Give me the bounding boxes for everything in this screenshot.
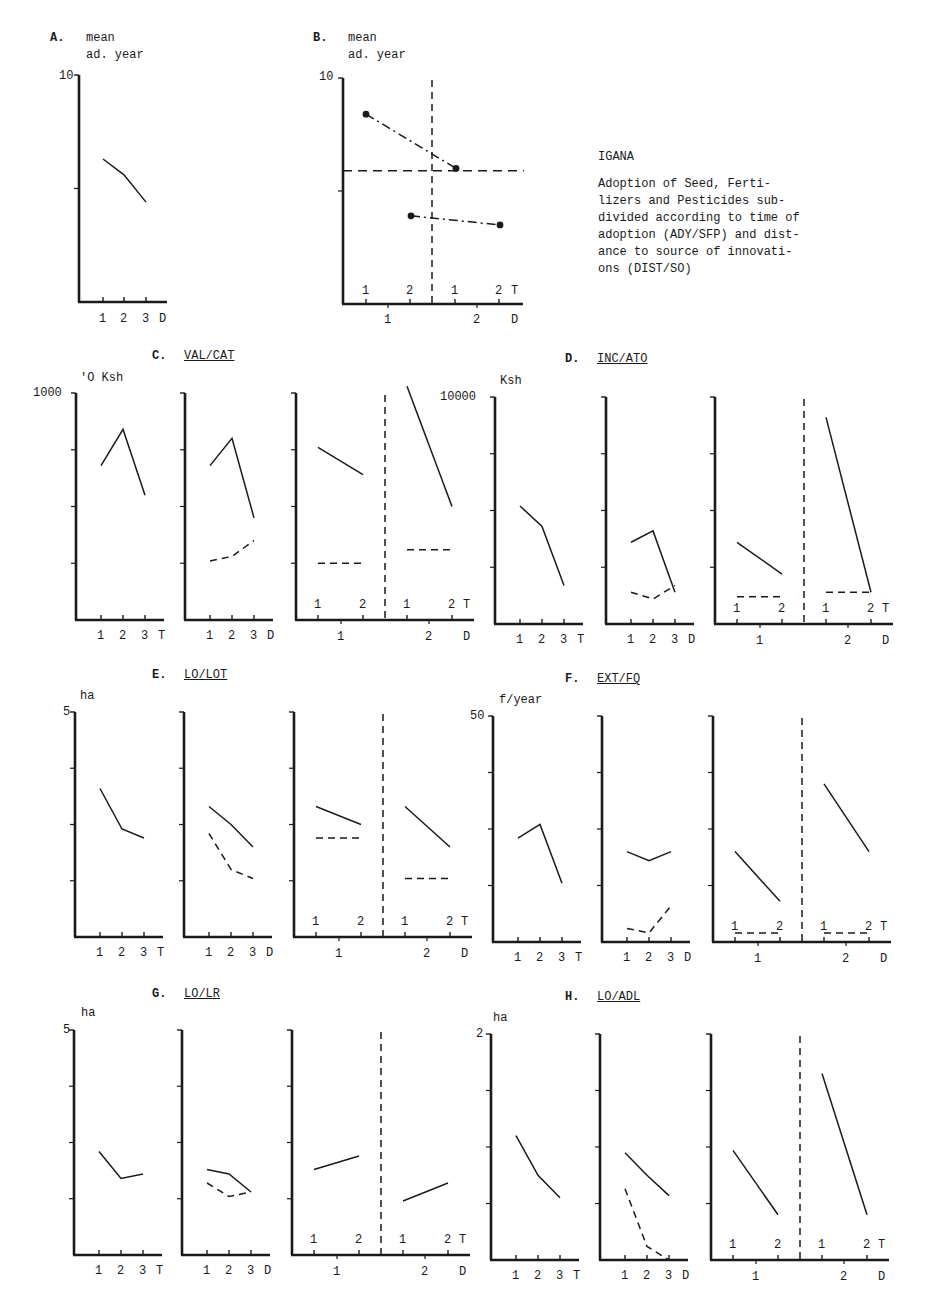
- T-tick-label: 1: [731, 920, 738, 934]
- series-line: [735, 852, 780, 902]
- x-tick-label: 1: [512, 1269, 519, 1283]
- x-tick-label: 1: [621, 1269, 628, 1283]
- x-tick-label: 1: [514, 951, 521, 965]
- T-tick-label: 1: [310, 1233, 317, 1247]
- series-line: [631, 531, 675, 592]
- x-axis-title: T: [577, 633, 584, 647]
- D-tick-label: 1: [756, 634, 763, 648]
- T-tick-label: 2: [867, 602, 874, 616]
- T-tick-label: 2: [444, 1233, 451, 1247]
- x-tick-label: 3: [249, 946, 256, 960]
- series-line: [822, 1074, 867, 1215]
- caption-line: divided according to time of: [598, 210, 838, 227]
- x-tick-label: 1: [97, 629, 104, 643]
- T-axis-title: T: [882, 602, 889, 616]
- T-tick-label: 1: [401, 915, 408, 929]
- T-tick-label: 2: [495, 284, 502, 298]
- series-line-dashed: [625, 1189, 669, 1260]
- x-axis-title: D: [682, 1269, 689, 1283]
- y-axis-title: ad. year: [348, 48, 406, 62]
- x-axis-title: D: [267, 629, 274, 643]
- x-tick-label: 1: [96, 946, 103, 960]
- T-axis-title: T: [878, 1238, 885, 1252]
- x-axis-title: D: [159, 312, 166, 326]
- D-tick-label: 2: [840, 1270, 847, 1284]
- x-tick-label: 2: [538, 633, 545, 647]
- series-line: [366, 114, 456, 168]
- T-tick-label: 2: [446, 915, 453, 929]
- series-line: [101, 429, 145, 495]
- series-line: [824, 784, 869, 852]
- T-tick-label: 2: [359, 598, 366, 612]
- panel-title: LO/LOT: [184, 668, 227, 682]
- D-tick-label: 2: [844, 634, 851, 648]
- x-tick-label: 3: [247, 1264, 254, 1278]
- y-axis-unit: ha: [81, 1006, 95, 1020]
- x-tick-label: 1: [627, 633, 634, 647]
- D-tick-label: 2: [425, 630, 432, 644]
- caption-line: Adoption of Seed, Ferti-: [598, 176, 838, 193]
- D-axis-title: D: [463, 630, 470, 644]
- T-tick-label: 2: [863, 1238, 870, 1252]
- caption-line: lizers and Pesticides sub-: [598, 193, 838, 210]
- series-line-dashed: [631, 585, 675, 599]
- D-tick-label: 1: [333, 1265, 340, 1279]
- D-axis-title: D: [878, 1270, 885, 1284]
- T-axis-title: T: [463, 598, 470, 612]
- x-tick-label: 1: [623, 951, 630, 965]
- T-axis-title: T: [461, 915, 468, 929]
- x-tick-label: 3: [140, 946, 147, 960]
- caption-location: IGANA: [598, 149, 838, 166]
- series-line: [627, 852, 671, 861]
- x-axis-title: T: [573, 1269, 580, 1283]
- series-line: [318, 447, 363, 474]
- x-tick-label: 2: [228, 629, 235, 643]
- x-tick-label: 3: [139, 1264, 146, 1278]
- D-tick-label: 1: [754, 952, 761, 966]
- panel-letter: H.: [565, 990, 579, 1004]
- series-line: [625, 1153, 669, 1196]
- x-tick-label: 2: [118, 946, 125, 960]
- y-axis-unit: 'O Ksh: [80, 371, 123, 385]
- y-max-label: 10000: [440, 390, 476, 404]
- T-tick-label: 2: [448, 598, 455, 612]
- y-max-label: 2: [476, 1027, 483, 1041]
- T-axis-title: T: [511, 284, 518, 298]
- T-tick-label: 1: [314, 598, 321, 612]
- data-point-marker: [497, 222, 504, 229]
- x-tick-label: 2: [536, 951, 543, 965]
- x-tick-label: 1: [205, 946, 212, 960]
- x-axis-title: D: [684, 951, 691, 965]
- panel-title: LO/LR: [184, 987, 220, 1001]
- y-axis-unit: Ksh: [500, 374, 522, 388]
- x-tick-label: 1: [95, 1264, 102, 1278]
- figure-caption: IGANA Adoption of Seed, Ferti- lizers an…: [598, 149, 838, 278]
- x-axis-title: T: [157, 946, 164, 960]
- x-tick-label: 2: [117, 1264, 124, 1278]
- y-axis-unit: ha: [80, 689, 94, 703]
- T-tick-label: 2: [406, 284, 413, 298]
- series-line: [516, 1136, 560, 1198]
- panel-title: EXT/FQ: [597, 672, 640, 686]
- x-axis-title: T: [575, 951, 582, 965]
- panel-letter: G.: [152, 987, 166, 1001]
- T-tick-label: 2: [776, 920, 783, 934]
- T-tick-label: 2: [357, 915, 364, 929]
- D-tick-label: 2: [473, 313, 480, 327]
- T-tick-label: 1: [312, 915, 319, 929]
- D-axis-title: D: [461, 947, 468, 961]
- x-tick-label: 1: [516, 633, 523, 647]
- caption-line: adoption (ADY/SFP) and dist-: [598, 227, 838, 244]
- x-tick-label: 3: [558, 951, 565, 965]
- panel-title: VAL/CAT: [184, 349, 234, 363]
- x-tick-label: 1: [203, 1264, 210, 1278]
- D-tick-label: 1: [335, 947, 342, 961]
- series-line: [411, 216, 500, 225]
- T-tick-label: 2: [774, 1238, 781, 1252]
- series-line: [520, 506, 564, 585]
- y-axis-title: mean: [86, 31, 115, 45]
- T-axis-title: T: [459, 1233, 466, 1247]
- series-line: [207, 1170, 251, 1193]
- x-tick-label: 3: [671, 633, 678, 647]
- D-tick-label: 2: [423, 947, 430, 961]
